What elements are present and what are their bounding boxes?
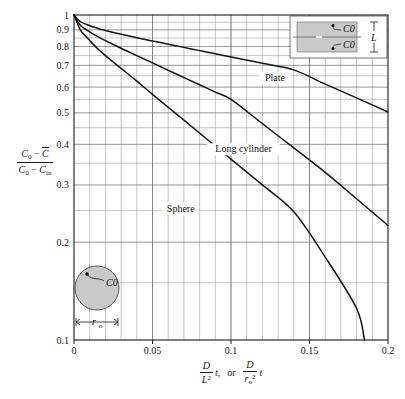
y-tick-label: 0.9 (57, 24, 70, 35)
x-tick-label: 0 (72, 345, 77, 356)
curve-label-sphere: Sphere (162, 203, 199, 215)
y-tick-label: 0.3 (57, 179, 70, 190)
y-tick-label: 0.7 (57, 60, 70, 71)
y-tick-label: 0.8 (57, 41, 70, 52)
sphere-inset-dimension-sub: o (99, 322, 103, 330)
y-axis-label: C0 − C C0 − Cin (4, 148, 66, 177)
svg-text:Plate: Plate (265, 72, 286, 83)
curve-label-long-cylinder: Long cylinder (207, 143, 279, 155)
sphere-inset-label: C0 (106, 277, 118, 288)
diffusion-chart-svg: 0.10.20.30.40.50.60.70.80.91 00.050.10.1… (0, 0, 405, 399)
svg-text:Long cylinder: Long cylinder (215, 143, 272, 154)
plate-inset-label-bottom: C0 (343, 39, 355, 50)
y-axis-tick-labels: 0.10.20.30.40.50.60.70.80.91 (57, 10, 70, 346)
x-axis-tick-labels: 00.050.10.150.2 (72, 345, 395, 356)
y-tick-label: 0.5 (57, 107, 70, 118)
plate-inset-dimension-label: L (370, 32, 377, 43)
plate-inset-label-top: C0 (343, 23, 355, 34)
y-tick-label: 0.1 (57, 335, 70, 346)
svg-text:Sphere: Sphere (167, 203, 195, 214)
x-tick-label: 0.15 (301, 345, 319, 356)
y-tick-label: 1 (64, 10, 69, 21)
plate-geometry-inset: C0 C0 L (290, 16, 387, 58)
y-tick-label: 0.6 (57, 82, 70, 93)
curve-label-plate: Plate (259, 72, 291, 84)
sphere-inset-dimension-label: r (92, 316, 96, 327)
y-tick-label: 0.2 (57, 237, 70, 248)
x-axis-tick-marks (74, 340, 388, 344)
x-axis-label: D L2 t, or D ro2 t (74, 359, 388, 386)
figure-container: 0.10.20.30.40.50.60.70.80.91 00.050.10.1… (0, 0, 405, 399)
x-tick-label: 0.05 (144, 345, 162, 356)
x-tick-label: 0.2 (382, 345, 395, 356)
x-tick-label: 0.1 (225, 345, 238, 356)
